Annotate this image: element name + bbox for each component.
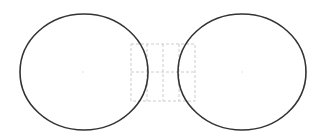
dashed-grid bbox=[131, 44, 195, 101]
diagram-canvas bbox=[0, 0, 322, 140]
left-center-point bbox=[82, 71, 84, 73]
diagram-svg bbox=[0, 0, 322, 140]
left-ellipse bbox=[20, 14, 148, 130]
right-center-point bbox=[241, 71, 243, 73]
